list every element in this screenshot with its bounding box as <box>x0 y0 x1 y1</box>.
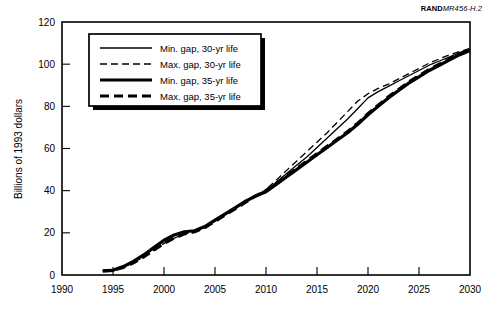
figure-container: RANDMR456-H.2 Billions of 1993 dollars 0… <box>0 0 490 310</box>
legend-label-1: Max. gap, 30-yr life <box>160 59 241 70</box>
x-tick-label: 2025 <box>408 284 431 295</box>
x-tick-label: 2010 <box>255 284 278 295</box>
line-chart: Billions of 1993 dollars 020406080100120… <box>0 0 490 310</box>
chart-legend: Min. gap, 30-yr lifeMax. gap, 30-yr life… <box>89 34 265 110</box>
x-tick-label: 2015 <box>306 284 329 295</box>
y-tick-label: 0 <box>49 270 55 281</box>
x-tick-label: 2020 <box>357 284 380 295</box>
y-tick-label: 100 <box>38 59 55 70</box>
x-tick-label: 2005 <box>204 284 227 295</box>
x-tick-label: 2000 <box>153 284 176 295</box>
x-tick-label: 2030 <box>459 284 482 295</box>
x-axis-ticks: 199019952000200520102015202020252030 <box>51 267 482 295</box>
legend-label-0: Min. gap, 30-yr life <box>160 43 238 54</box>
x-tick-label: 1990 <box>51 284 74 295</box>
y-tick-label: 60 <box>44 143 56 154</box>
y-axis-title-group: Billions of 1993 dollars <box>13 99 24 199</box>
y-tick-label: 20 <box>44 227 56 238</box>
legend-label-3: Max. gap, 35-yr life <box>160 91 241 102</box>
y-axis-ticks: 020406080100120 <box>38 17 70 281</box>
x-tick-label: 1995 <box>102 284 125 295</box>
y-tick-label: 40 <box>44 185 56 196</box>
y-tick-label: 120 <box>38 17 55 28</box>
y-tick-label: 80 <box>44 101 56 112</box>
y-axis-title: Billions of 1993 dollars <box>13 99 24 199</box>
legend-label-2: Min. gap, 35-yr life <box>160 75 238 86</box>
